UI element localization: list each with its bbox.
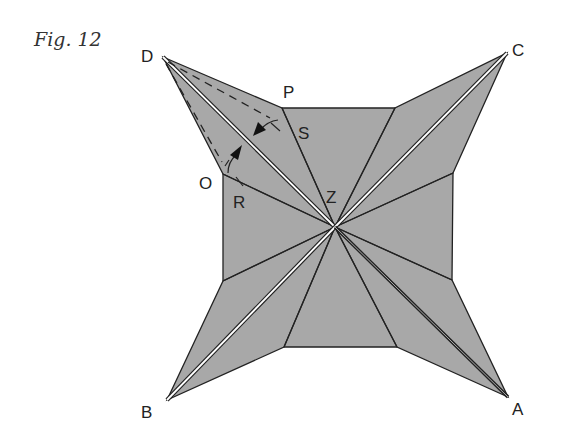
label-p: P [283,83,294,102]
label-o: O [199,174,212,193]
label-z: Z [326,188,336,207]
label-s: S [298,124,309,143]
label-c: C [512,41,524,60]
label-d: D [141,47,153,66]
label-a: A [512,400,524,419]
label-b: B [141,403,152,422]
origami-diagram: D C B A P S O R Z [0,0,563,435]
label-r: R [233,193,245,212]
